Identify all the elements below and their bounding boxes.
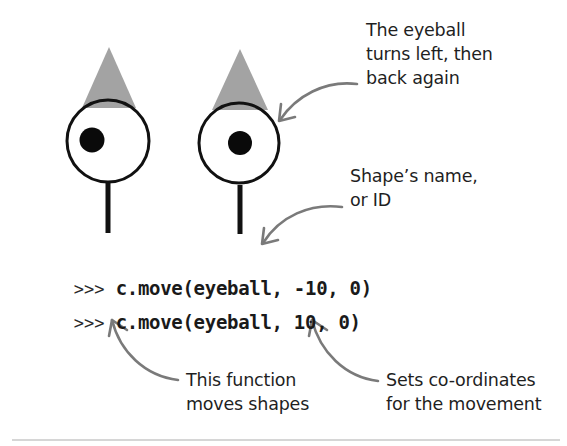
annotation-move-function: This function moves shapes [186,368,309,416]
code-text: c.move(eyeball, 10, 0) [104,311,360,333]
annotation-line: Shape’s name, [350,164,478,188]
python-prompt: >>> [74,313,105,333]
annotation-eyeball-turns: The eyeball turns left, then back again [366,18,493,90]
code-line-move-right: >>> c.move(eyeball, 10, 0) [28,286,361,359]
annotation-line: turns left, then [366,42,493,66]
annotation-line: This function [186,368,309,392]
eyeball-before [67,47,149,233]
arrow-to-shape-name [262,206,342,244]
annotation-line: for the movement [386,392,541,416]
eye-circle [67,100,149,182]
code-statement: c.move(eyeball, 10, 0) [116,311,361,333]
annotation-line: or ID [350,188,478,212]
eyeball-after [199,49,279,234]
arrow-to-eyeball [279,83,357,121]
annotation-line: Sets co-ordinates [386,368,541,392]
eyeball-move-diagram: The eyeball turns left, then back again … [0,0,567,446]
annotation-line: The eyeball [366,18,493,42]
annotation-coordinates: Sets co-ordinates for the movement [386,368,541,416]
annotation-line: back again [366,66,493,90]
hat-triangle [212,49,268,110]
bottom-divider [12,439,560,441]
annotation-shape-name: Shape’s name, or ID [350,164,478,212]
pupil [228,131,252,155]
pupil [80,128,105,153]
annotation-line: moves shapes [186,392,309,416]
